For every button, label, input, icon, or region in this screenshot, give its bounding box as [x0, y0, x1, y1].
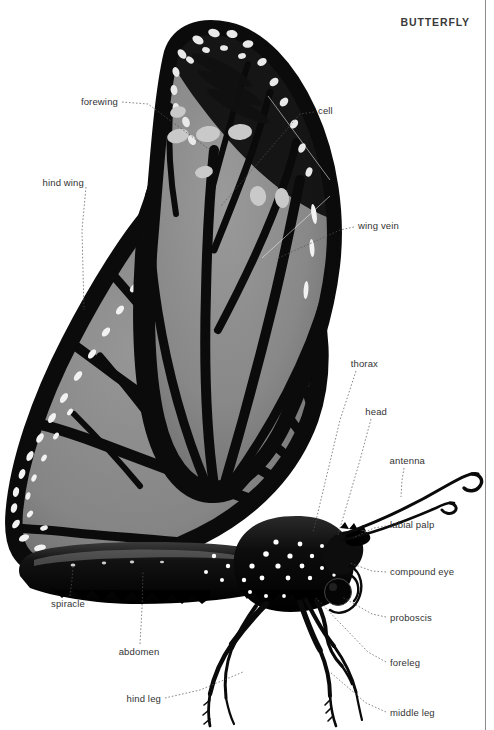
leader-hind-wing — [82, 187, 86, 310]
label-compound-eye: compound eye — [390, 567, 454, 577]
label-head: head — [365, 407, 387, 417]
hind-leg-shape — [203, 604, 266, 726]
label-labial-palp: labial palp — [390, 520, 434, 530]
label-abdomen: abdomen — [119, 647, 160, 657]
diagram-stage: BUTTERFLY forewingcellhind wingwing vein… — [0, 0, 494, 730]
label-forewing: forewing — [81, 97, 118, 107]
label-cell: cell — [318, 106, 333, 116]
label-spiracle: spiracle — [51, 599, 85, 609]
head-shape — [323, 474, 481, 613]
label-hind-wing: hind wing — [43, 178, 85, 188]
label-hind-leg: hind leg — [127, 694, 161, 704]
page-title: BUTTERFLY — [400, 16, 470, 28]
legs-group — [203, 600, 362, 726]
label-wing-vein: wing vein — [358, 221, 399, 231]
page-edge-rule — [485, 0, 486, 730]
label-thorax: thorax — [351, 359, 378, 369]
compound-eye-shape — [325, 579, 352, 606]
label-proboscis: proboscis — [390, 613, 432, 623]
leader-head — [338, 419, 371, 535]
leader-hind-leg — [165, 672, 243, 698]
middle-leg-far-shape — [306, 600, 362, 720]
label-middle-leg: middle leg — [390, 708, 435, 718]
leader-antenna — [401, 468, 404, 497]
label-antenna: antenna — [390, 456, 425, 466]
label-foreleg: foreleg — [390, 658, 420, 668]
